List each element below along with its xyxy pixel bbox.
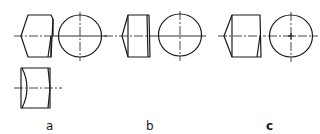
panel-c: c bbox=[218, 12, 318, 133]
panel-c-label: c bbox=[266, 119, 273, 133]
technical-drawing: a b c bbox=[0, 0, 320, 134]
panel-b: b bbox=[104, 11, 206, 133]
panel-a-lower-view bbox=[14, 68, 62, 108]
panel-c-end-view bbox=[268, 12, 318, 62]
panel-a: a bbox=[14, 12, 107, 133]
panel-a-end-view bbox=[59, 12, 102, 61]
panel-b-label: b bbox=[146, 119, 154, 133]
panel-a-label: a bbox=[46, 119, 53, 133]
